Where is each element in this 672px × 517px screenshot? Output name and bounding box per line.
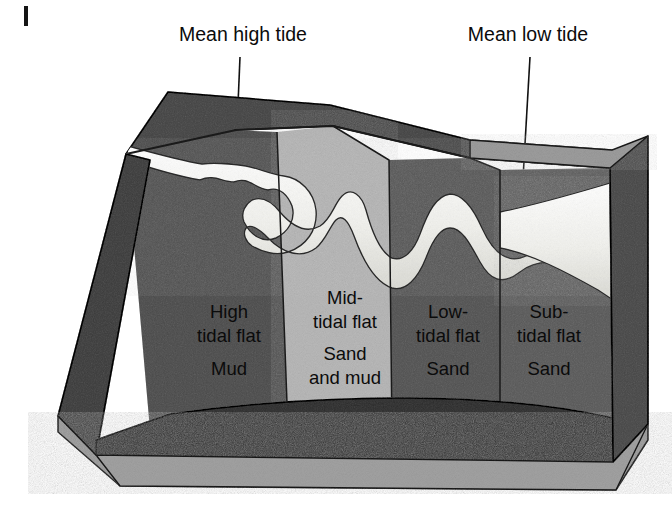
zone-label-line: and mud <box>309 367 381 388</box>
mean-high-tide-label: Mean high tide <box>179 23 307 45</box>
zone-label-line: Mud <box>211 358 247 379</box>
tidal-flat-block-diagram: Mean high tide Mean low tide High tidal … <box>0 0 672 517</box>
zone-label-line: Sand <box>323 343 366 364</box>
zone-label-line: Sub- <box>529 301 568 322</box>
zone-label-line: High <box>210 301 248 322</box>
block-left-face <box>58 154 150 455</box>
zone-label-line: tidal flat <box>313 311 377 332</box>
zone-label-line: tidal flat <box>416 325 480 346</box>
zone-label-line: Low- <box>428 301 468 322</box>
mean-low-tide-label: Mean low tide <box>468 23 588 45</box>
zone-label-line: tidal flat <box>517 325 581 346</box>
zone-label-line: Mid- <box>327 287 363 308</box>
zone-label-line: Sand <box>527 358 570 379</box>
page-edge-mark <box>24 6 28 26</box>
zone-label-line: Sand <box>426 358 469 379</box>
block-right-face <box>610 136 648 462</box>
diagram-canvas: Mean high tide Mean low tide High tidal … <box>0 0 672 517</box>
zone-label-line: tidal flat <box>197 325 261 346</box>
